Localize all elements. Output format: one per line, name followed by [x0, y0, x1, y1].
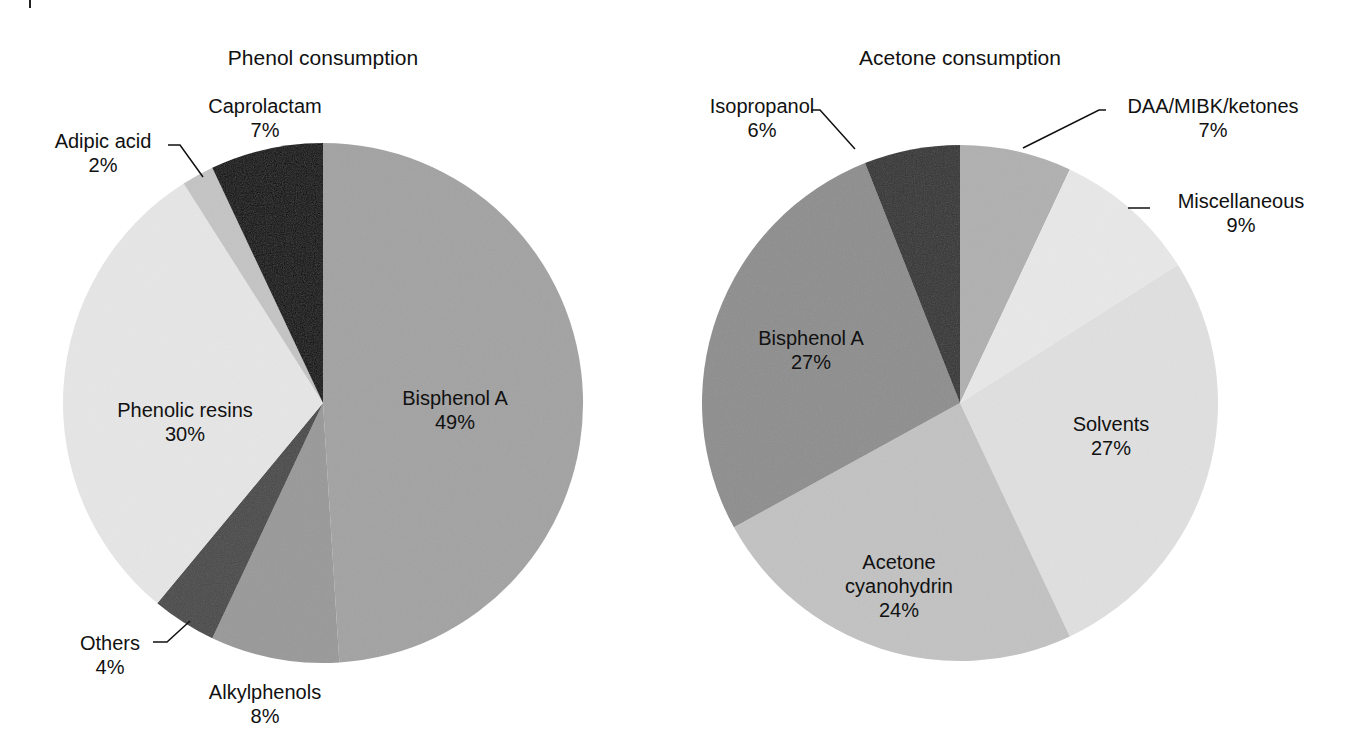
leader-line-isopropanol	[811, 110, 855, 149]
slice-name: Others	[80, 632, 140, 654]
leader-line-others	[153, 621, 190, 642]
slice-percent: 8%	[251, 705, 280, 727]
leader-line-daa-mibk-ketones	[1023, 110, 1106, 148]
slice-label-miscellaneous: Miscellaneous9%	[1178, 189, 1305, 237]
acetone-chart-title: Acetone consumption	[859, 46, 1061, 70]
slice-label-others: Others4%	[80, 631, 140, 679]
slice-label-bisphenol-a: Bisphenol A49%	[402, 386, 508, 434]
slice-percent: 7%	[1199, 119, 1228, 141]
slice-percent: 7%	[251, 119, 280, 141]
slice-percent: 27%	[791, 351, 831, 373]
slice-label-isopropanol: Isopropanol6%	[710, 94, 815, 142]
slice-name: Adipic acid	[55, 130, 152, 152]
slice-label-phenolic-resins: Phenolic resins30%	[117, 398, 253, 446]
slice-label-acetone-cyanohydrin: Acetonecyanohydrin24%	[845, 550, 953, 622]
slice-name: Acetonecyanohydrin	[845, 551, 953, 597]
slice-name: Phenolic resins	[117, 399, 253, 421]
slice-name: Bisphenol A	[402, 387, 508, 409]
slice-name: Miscellaneous	[1178, 190, 1305, 212]
slice-label-adipic-acid: Adipic acid2%	[55, 129, 152, 177]
slice-percent: 4%	[96, 656, 125, 678]
slice-label-solvents: Solvents27%	[1073, 412, 1150, 460]
slice-name: Bisphenol A	[758, 327, 864, 349]
slice-name: DAA/MIBK/ketones	[1127, 95, 1298, 117]
chart-figure: Phenol consumption Acetone consumption B…	[0, 0, 1356, 743]
slice-name: Isopropanol	[710, 95, 815, 117]
slice-label-daa-mibk-ketones: DAA/MIBK/ketones7%	[1127, 94, 1298, 142]
slice-label-bisphenol-a: Bisphenol A27%	[758, 326, 864, 374]
slice-percent: 24%	[879, 599, 919, 621]
slice-label-caprolactam: Caprolactam7%	[208, 94, 321, 142]
acetone-pie	[702, 110, 1218, 661]
slice-name: Caprolactam	[208, 95, 321, 117]
slice-percent: 9%	[1227, 214, 1256, 236]
slice-percent: 6%	[748, 119, 777, 141]
slice-percent: 49%	[435, 411, 475, 433]
slice-percent: 2%	[89, 154, 118, 176]
slice-percent: 27%	[1091, 437, 1131, 459]
leader-line-adipic-acid	[168, 145, 203, 177]
slice-name: Alkylphenols	[209, 681, 321, 703]
slice-label-alkylphenols: Alkylphenols8%	[209, 680, 321, 728]
phenol-chart-title: Phenol consumption	[228, 46, 418, 70]
slice-percent: 30%	[165, 423, 205, 445]
slice-name: Solvents	[1073, 413, 1150, 435]
